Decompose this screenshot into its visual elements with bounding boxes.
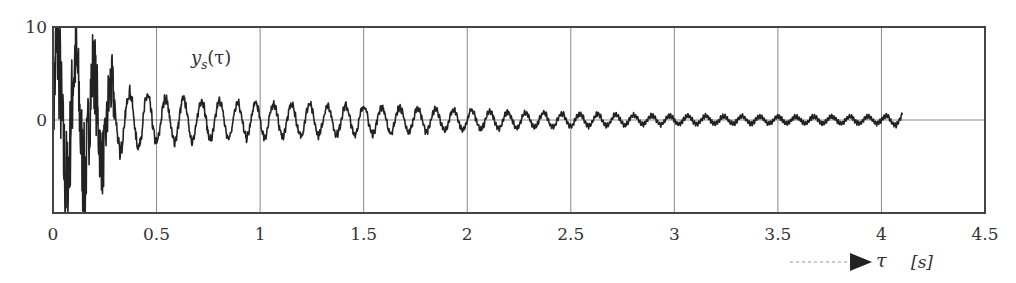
x-tick-label: 3 <box>669 224 680 244</box>
x-tick-label: 3.5 <box>764 224 791 244</box>
axis-arrow-icon <box>850 253 872 271</box>
series-label-arg: (τ) <box>207 47 231 68</box>
x-tick-label: 1 <box>255 224 266 244</box>
x-tick-label: 0.5 <box>143 224 170 244</box>
y-tick-label: 0 <box>36 110 47 130</box>
y-axis-tick-labels: 100 <box>25 17 47 130</box>
series-label: ys(τ) <box>190 47 231 72</box>
x-tick-label: 1.5 <box>350 224 377 244</box>
x-axis-label: τ <box>876 249 887 271</box>
x-tick-label: 0 <box>48 224 59 244</box>
x-tick-label: 2.5 <box>557 224 584 244</box>
x-axis-unit: [s] <box>911 252 933 272</box>
x-tick-label: 4 <box>876 224 887 244</box>
time-response-chart: 00.511.522.533.544.5 100 ys(τ) τ [s] <box>0 0 1016 283</box>
x-tick-label: 4.5 <box>971 224 998 244</box>
x-tick-label: 2 <box>462 224 473 244</box>
x-axis-label-group: τ [s] <box>790 249 933 272</box>
x-axis-tick-labels: 00.511.522.533.544.5 <box>48 224 999 244</box>
y-tick-label: 10 <box>25 17 47 37</box>
